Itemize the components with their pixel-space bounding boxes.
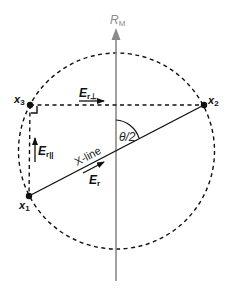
angle-label: θ/2 xyxy=(119,130,136,144)
rm-axis-label: RM xyxy=(110,13,126,28)
point-x1 xyxy=(26,193,32,199)
point-x2 xyxy=(201,102,207,108)
point-x2-label: x2 xyxy=(207,94,219,108)
point-x3-label: x3 xyxy=(13,93,25,107)
point-x1-label: x1 xyxy=(18,199,30,213)
x-line-label: X-line xyxy=(72,144,102,168)
e-r-arrow xyxy=(83,162,104,173)
rm-axis-arrowhead-icon xyxy=(112,28,121,40)
x-line-geometry-diagram: RM θ/2 x1 x2 x3 Er⊥ Er|| X-line Er xyxy=(0,0,229,293)
e-r-perp-label: Er⊥ xyxy=(79,86,97,101)
e-r-parallel-label: Er|| xyxy=(38,144,54,159)
point-x3 xyxy=(27,102,33,108)
e-r-label: Er xyxy=(89,173,100,188)
x3-x1-dashed-line xyxy=(29,105,30,196)
